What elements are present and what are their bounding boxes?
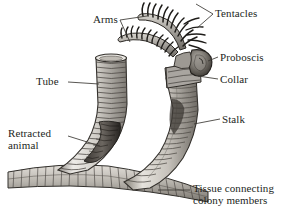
label-proboscis: Proboscis xyxy=(220,52,264,64)
leader-tube xyxy=(68,82,99,84)
label-collar: Collar xyxy=(220,74,248,86)
proboscis-structure xyxy=(189,50,212,77)
label-retracted-animal: Retracted animal xyxy=(8,128,51,151)
label-tissue-connecting: Tissue connecting colony members xyxy=(193,183,274,206)
anatomy-figure: Tentacles Arms Proboscis Collar Stalk Tu… xyxy=(0,0,285,216)
leader-tentacles-b xyxy=(197,14,213,28)
tissue-connecting-structure xyxy=(8,164,208,202)
leader-tentacles-a xyxy=(196,4,213,14)
leader-stalk xyxy=(194,119,220,124)
label-stalk: Stalk xyxy=(222,114,245,126)
label-arms: Arms xyxy=(93,14,118,26)
label-tube: Tube xyxy=(36,76,59,88)
label-tentacles: Tentacles xyxy=(215,8,257,20)
